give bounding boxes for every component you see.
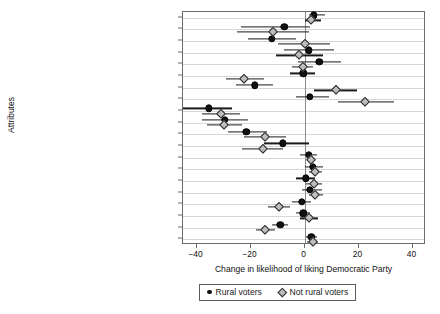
plot-inner xyxy=(183,12,424,243)
gridline xyxy=(183,99,424,100)
gridline xyxy=(183,18,424,19)
x-axis-tick-label: 20 xyxy=(353,249,362,259)
gridline xyxy=(183,29,424,30)
point-marker-not-rural xyxy=(274,202,284,212)
x-axis-tick-label: 0 xyxy=(301,249,306,259)
y-axis-title: Attributes xyxy=(6,79,16,151)
gridline xyxy=(183,193,424,194)
point-marker-not-rural xyxy=(310,167,320,177)
gridline xyxy=(183,239,424,240)
open-diamond-icon xyxy=(278,287,287,296)
gridline xyxy=(183,158,424,159)
legend-label: Rural voters xyxy=(216,287,262,297)
point-marker-not-rural xyxy=(260,132,270,142)
legend: Rural voters Not rural voters xyxy=(199,284,356,301)
gridline xyxy=(183,88,424,89)
x-axis-tick xyxy=(196,244,197,248)
x-axis-tick-label: 40 xyxy=(407,249,416,259)
legend-item-rural: Rural voters xyxy=(207,287,262,297)
point-marker-not-rural xyxy=(330,85,340,95)
confidence-interval xyxy=(264,143,309,144)
legend-item-not-rural: Not rural voters xyxy=(279,287,348,297)
point-marker-not-rural xyxy=(310,190,320,200)
point-marker-not-rural xyxy=(360,97,370,107)
x-axis-tick xyxy=(250,244,251,248)
plot-area xyxy=(182,11,425,244)
gridline xyxy=(183,134,424,135)
x-axis-tick xyxy=(358,244,359,248)
point-marker-not-rural xyxy=(239,73,249,83)
point-marker-not-rural xyxy=(294,50,304,60)
x-axis-tick-label: −40 xyxy=(188,249,202,259)
x-axis-tick-label: −20 xyxy=(242,249,256,259)
x-axis-tick xyxy=(412,244,413,248)
gridline xyxy=(183,228,424,229)
point-marker-not-rural xyxy=(257,143,267,153)
filled-circle-icon xyxy=(207,290,212,295)
point-marker-not-rural xyxy=(260,225,270,235)
gridline xyxy=(183,146,424,147)
x-axis-title: Change in likelihood of liking Democrati… xyxy=(182,264,425,274)
figure: Attributes Personal well-beingPlace-base… xyxy=(0,0,440,314)
gridline xyxy=(183,169,424,170)
x-axis-tick xyxy=(304,244,305,248)
legend-label: Not rural voters xyxy=(290,287,349,297)
confidence-interval xyxy=(241,26,310,27)
